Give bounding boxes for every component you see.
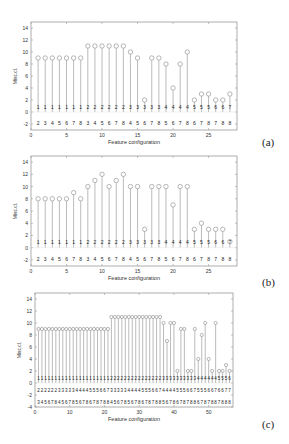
stem-marker [213, 98, 217, 102]
category-label-digit: 6 [172, 256, 175, 262]
category-label-digit: 7 [229, 239, 232, 245]
category-label-digit: 5 [200, 239, 203, 245]
category-label-digit: 5 [58, 120, 61, 126]
plot-frame [31, 156, 237, 266]
category-label-digit: 3 [143, 104, 146, 110]
stem-marker [141, 315, 144, 318]
category-label-digit: 6 [108, 120, 111, 126]
stem-marker [218, 369, 221, 372]
stem-marker [221, 98, 225, 102]
category-label-digit: 5 [193, 239, 196, 245]
category-label-digit: 3 [150, 239, 153, 245]
y-axis-label: Misc.cl. [16, 342, 22, 359]
category-label-digit: 8 [157, 256, 160, 262]
category-label-digit: 5 [136, 256, 139, 262]
category-label-digit: 4 [165, 239, 168, 245]
x-tick-label: 0 [30, 132, 33, 138]
category-label-digit: 1 [79, 104, 82, 110]
y-tick-label: -2 [28, 392, 33, 398]
y-tick-label: 10 [26, 320, 32, 326]
category-label-digit: 5 [136, 120, 139, 126]
category-label-digit: 1 [58, 239, 61, 245]
stem-marker [50, 197, 54, 201]
category-label-digit: 7 [200, 256, 203, 262]
plot-frame [31, 22, 237, 130]
category-label-digit: 4 [179, 239, 182, 245]
category-label-digit: 2 [86, 104, 89, 110]
y-tick-label: 2 [25, 232, 28, 238]
stem-marker [36, 56, 40, 60]
category-label-digit: 6 [221, 104, 224, 110]
stem-marker [207, 357, 210, 360]
stem-marker [169, 321, 172, 324]
category-label-digit: 4 [94, 256, 97, 262]
stem-marker [93, 178, 97, 182]
y-tick-label: 12 [22, 37, 28, 43]
stem-marker [106, 327, 109, 330]
stem-marker [92, 327, 95, 330]
stem-marker [145, 315, 148, 318]
stem-marker [64, 197, 68, 201]
category-label-digit: 3 [86, 120, 89, 126]
stem-marker [128, 184, 132, 188]
category-label-digit: 4 [172, 104, 175, 110]
category-label-digit: 3 [157, 239, 160, 245]
category-label-digit: 4 [94, 120, 97, 126]
x-tick-label: 10 [67, 409, 73, 415]
stem-marker [72, 327, 75, 330]
category-label-digit: 8 [221, 256, 224, 262]
x-tick-label: 20 [102, 409, 108, 415]
y-tick-label: 4 [25, 220, 28, 226]
stem-marker [200, 333, 203, 336]
category-label-digit: 7 [229, 104, 232, 110]
x-tick-label: 30 [136, 409, 142, 415]
stem-marker [162, 321, 165, 324]
x-tick-label: 25 [206, 132, 212, 138]
stem-marker [199, 221, 203, 225]
stem-marker [37, 327, 40, 330]
category-label-digit: 3 [129, 239, 132, 245]
stem-marker [110, 315, 113, 318]
category-label-digit: 5 [200, 104, 203, 110]
category-label-digit: 4 [179, 104, 182, 110]
y-axis-label: Misc.cl. [12, 68, 18, 85]
stem-marker [193, 327, 196, 330]
category-label-digit: 3 [129, 104, 132, 110]
x-tick-label: 50 [206, 409, 212, 415]
category-label-digit: 5 [101, 256, 104, 262]
category-label-digit: 8 [229, 120, 232, 126]
stem-marker [121, 44, 125, 48]
stem-marker [152, 315, 155, 318]
category-label-digit: 3 [86, 256, 89, 262]
stem-marker [186, 369, 189, 372]
y-tick-label: 10 [22, 184, 28, 190]
stem-marker [179, 327, 182, 330]
stem-marker [43, 197, 47, 201]
chart-panel-a: -2024681012140510152025Feature configura… [0, 0, 289, 148]
stem-marker [211, 369, 214, 372]
category-label-digit: 2 [108, 104, 111, 110]
stem-marker [71, 56, 75, 60]
stem-marker [114, 44, 118, 48]
stem-marker [103, 327, 106, 330]
stem-marker [164, 62, 168, 66]
y-tick-label: 8 [29, 332, 32, 338]
category-label-digit: 4 [186, 104, 189, 110]
y-tick-label: 6 [25, 208, 28, 214]
y-tick-label: -4 [28, 404, 33, 410]
stem-marker [113, 315, 116, 318]
category-label-digit: 1 [72, 104, 75, 110]
stem-marker [47, 327, 50, 330]
stem-marker [50, 56, 54, 60]
stem-marker [192, 98, 196, 102]
stem-marker [157, 56, 161, 60]
stem-marker [120, 315, 123, 318]
stem-marker [99, 327, 102, 330]
stem-marker [89, 327, 92, 330]
stem-marker [100, 172, 104, 176]
stem-marker [197, 357, 200, 360]
category-label-digit: 3 [136, 104, 139, 110]
category-label-digit: 8 [228, 400, 231, 405]
stem-marker [164, 184, 168, 188]
stem-marker [82, 327, 85, 330]
